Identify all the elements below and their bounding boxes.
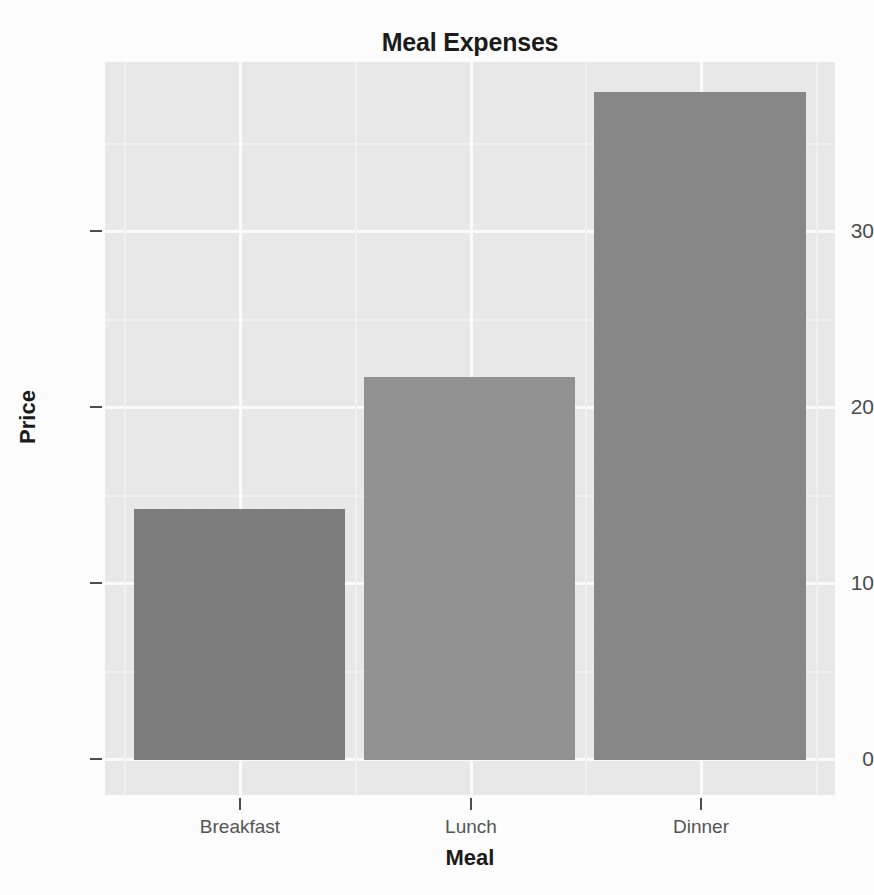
x-tick-label-breakfast: Breakfast [140, 816, 340, 838]
bar-lunch [364, 377, 575, 760]
y-tick-mark-10 [90, 582, 102, 584]
y-tick-label-10: 10 [828, 571, 874, 595]
y-tick-mark-20 [90, 406, 102, 408]
y-tick-label-30: 30 [828, 219, 874, 243]
x-axis-title: Meal [105, 845, 835, 871]
gridline-minor-vertical [124, 62, 126, 795]
gridline-minor-vertical [585, 62, 587, 795]
x-tick-label-dinner: Dinner [601, 816, 801, 838]
x-tick-label-lunch: Lunch [371, 816, 571, 838]
x-tick-mark-lunch [470, 798, 472, 810]
x-tick-mark-dinner [700, 798, 702, 810]
bar-chart-figure: Meal Expenses 30 20 10 0 Price [0, 0, 874, 895]
gridline-minor-vertical [355, 62, 357, 795]
y-tick-mark-30 [90, 230, 102, 232]
y-tick-label-20: 20 [828, 395, 874, 419]
y-tick-mark-0 [90, 758, 102, 760]
plot-panel [105, 62, 835, 795]
bar-breakfast [134, 509, 345, 760]
gridline-minor-vertical [816, 62, 818, 795]
bar-dinner [594, 92, 806, 760]
x-tick-mark-breakfast [239, 798, 241, 810]
chart-title: Meal Expenses [105, 28, 835, 57]
y-tick-label-0: 0 [828, 747, 874, 771]
y-axis-title: Price [15, 357, 41, 477]
